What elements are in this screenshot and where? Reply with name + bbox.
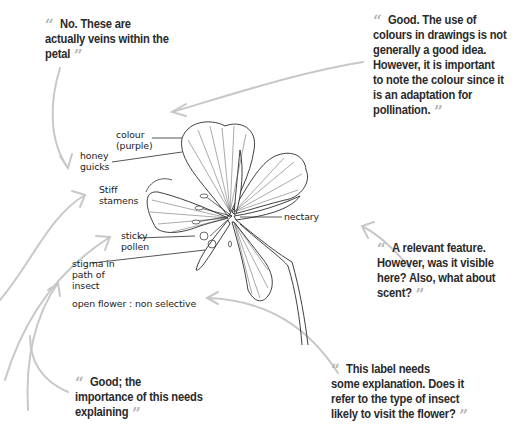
close-quote-icon: ” bbox=[434, 101, 441, 121]
comment-open-flower-line1: “This label needs bbox=[331, 362, 466, 377]
label-stiff-line1: Stiff bbox=[99, 184, 138, 195]
label-honey-line1: honey bbox=[80, 150, 109, 161]
comment-text: some explanation. Does it bbox=[331, 377, 466, 392]
comment-text: to note the colour since it bbox=[373, 73, 506, 88]
comment-text: here? Also, what about bbox=[377, 271, 495, 286]
comment-text: However, was it visible bbox=[377, 256, 495, 271]
close-quote-icon: ” bbox=[415, 284, 422, 304]
comment-veins: “No. These are actually veins within the… bbox=[45, 17, 169, 62]
label-stiff-line2: stamens bbox=[99, 195, 138, 206]
comment-open-flower: “This label needs some explanation. Does… bbox=[331, 362, 466, 422]
label-stigma-line3: insect bbox=[72, 280, 115, 291]
comment-colour-line1: “Good. The use of bbox=[373, 13, 506, 28]
label-honey-guides: honey guicks bbox=[80, 150, 109, 172]
comment-stamens-line3: explaining” bbox=[75, 405, 203, 420]
close-quote-icon: ” bbox=[459, 405, 466, 425]
comment-nectary: “A relevant feature. However, was it vis… bbox=[377, 241, 495, 301]
comment-text: A relevant feature. bbox=[392, 241, 485, 255]
label-sticky-pollen: sticky pollen bbox=[121, 230, 149, 252]
comment-text: petal bbox=[45, 47, 70, 61]
label-colour-line1: colour bbox=[116, 129, 153, 140]
comment-text: scent? bbox=[377, 286, 412, 300]
comment-colour: “Good. The use of colours in drawings is… bbox=[373, 13, 506, 118]
label-stigma-line1: stigma in bbox=[72, 258, 115, 269]
label-stiff-stamens: Stiff stamens bbox=[99, 184, 138, 206]
comment-text: explaining bbox=[75, 405, 128, 419]
comment-colour-line7: pollination.” bbox=[373, 103, 506, 118]
comment-text: colours in drawings is not bbox=[373, 28, 506, 43]
comment-text: refer to the type of insect bbox=[331, 392, 466, 407]
comment-text: likely to visit the flower? bbox=[331, 407, 456, 421]
comment-text: pollination. bbox=[373, 103, 430, 117]
label-sticky-line1: sticky bbox=[121, 230, 149, 241]
label-colour: colour (purple) bbox=[116, 129, 153, 151]
label-sticky-line2: pollen bbox=[121, 241, 149, 252]
comment-veins-line1: “No. These are bbox=[45, 17, 169, 32]
comment-text: Good. The use of bbox=[388, 13, 476, 27]
label-open-flower: open flower : non selective bbox=[72, 298, 196, 309]
comment-stamens-line1: “Good; the bbox=[75, 375, 203, 390]
sepal-lower-left bbox=[196, 220, 230, 270]
label-stigma-line2: path of bbox=[72, 269, 115, 280]
leader-stamens bbox=[146, 179, 172, 192]
comment-text: generally a good idea. bbox=[373, 43, 506, 58]
comment-text: No. These are bbox=[60, 17, 131, 31]
comment-text: However, it is important bbox=[373, 58, 506, 73]
comment-stamens: “Good; the importance of this needs expl… bbox=[75, 375, 203, 420]
comment-nectary-line1: “A relevant feature. bbox=[377, 241, 495, 256]
label-nectary: nectary bbox=[284, 211, 319, 222]
label-colour-line2: (purple) bbox=[116, 140, 153, 151]
comment-veins-line3: petal” bbox=[45, 47, 169, 62]
comment-text: actually veins within the bbox=[45, 32, 169, 47]
stigma-curl bbox=[200, 232, 208, 240]
close-quote-icon: ” bbox=[132, 403, 139, 423]
comment-open-flower-line4: likely to visit the flower?” bbox=[331, 407, 466, 422]
comment-text: This label needs bbox=[346, 362, 430, 376]
comment-text: Good; the bbox=[90, 375, 141, 389]
label-stigma: stigma in path of insect bbox=[72, 258, 115, 291]
close-quote-icon: ” bbox=[74, 45, 81, 65]
label-honey-line2: guicks bbox=[80, 161, 109, 172]
comment-nectary-line4: scent?” bbox=[377, 286, 495, 301]
leader-honey-guides bbox=[112, 152, 182, 162]
